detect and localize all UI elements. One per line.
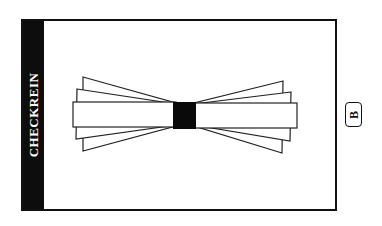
variant-badge-label: B [348, 110, 360, 118]
left-card-center [73, 102, 176, 127]
checkrein-bowtie-icon [0, 0, 382, 226]
right-card-center [194, 103, 297, 128]
variant-badge: B [345, 102, 362, 127]
center-knot [173, 102, 196, 129]
